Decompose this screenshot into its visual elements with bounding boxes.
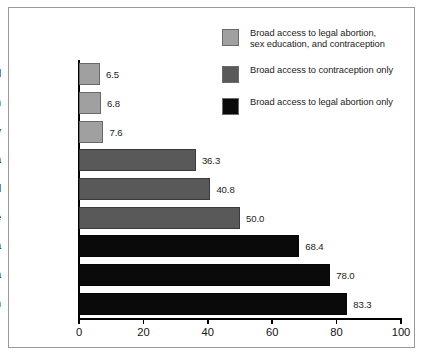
- y-axis-label: Chile: [0, 211, 1, 223]
- bar[interactable]: [79, 149, 196, 171]
- bar-row: 6.8: [79, 92, 401, 114]
- y-axis-category-labels: HollandBelgiumGermanyColombiaBrazilChile…: [0, 60, 1, 318]
- bar-row: 40.8: [79, 178, 401, 200]
- x-axis-tick-mark: [207, 318, 209, 324]
- x-axis-tick-mark: [271, 318, 273, 324]
- bar-value-label: 6.8: [107, 98, 120, 109]
- bar-value-label: 83.3: [353, 298, 371, 309]
- bar[interactable]: [79, 63, 100, 85]
- bar-row: 6.5: [79, 63, 401, 85]
- y-axis-label: Colombia: [0, 153, 1, 165]
- legend-item[interactable]: Broad access to legal abortion, sex educ…: [222, 28, 422, 51]
- legend-swatch-light-gray: [222, 29, 239, 46]
- x-axis-tick-label: 40: [202, 326, 214, 338]
- x-axis-tick-mark: [336, 318, 338, 324]
- x-axis-tick-label: 100: [392, 326, 411, 338]
- bar[interactable]: [79, 207, 240, 229]
- y-axis-label: Germany: [0, 125, 1, 137]
- bar[interactable]: [79, 235, 299, 257]
- y-axis-label: Romania: [0, 268, 1, 280]
- x-axis-tick-label: 60: [266, 326, 278, 338]
- legend-item-label: Broad access to legal abortion, sex educ…: [250, 28, 385, 51]
- bar-row: 50.0: [79, 207, 401, 229]
- x-axis-tick-mark: [400, 318, 402, 324]
- bar-value-label: 6.5: [106, 69, 119, 80]
- bar-value-label: 50.0: [246, 212, 264, 223]
- bar-row: 78.0: [79, 264, 401, 286]
- bar-row: 36.3: [79, 149, 401, 171]
- y-axis-label: Vietnam: [0, 297, 1, 309]
- bar-row: 7.6: [79, 121, 401, 143]
- y-axis-label: Belgium: [0, 96, 1, 108]
- bar-row: 68.4: [79, 235, 401, 257]
- x-axis-tick-label: 20: [137, 326, 149, 338]
- y-axis-label: Holland: [0, 67, 1, 79]
- bar-value-label: 36.3: [202, 155, 220, 166]
- plot-area: 6.56.87.636.340.850.068.478.083.30204060…: [79, 60, 401, 318]
- bar[interactable]: [79, 92, 101, 114]
- x-axis-tick-label: 0: [76, 326, 82, 338]
- bar[interactable]: [79, 264, 330, 286]
- bar-value-label: 7.6: [109, 126, 122, 137]
- y-axis-label: Brazil: [0, 182, 1, 194]
- chart-screenshot: Broad access to legal abortion, sex educ…: [0, 0, 425, 355]
- bar-value-label: 40.8: [216, 184, 234, 195]
- chart-frame: Broad access to legal abortion, sex educ…: [8, 7, 415, 348]
- bar-row: 83.3: [79, 293, 401, 315]
- y-axis-label: Russia: [0, 239, 1, 251]
- x-axis-tick-label: 80: [330, 326, 342, 338]
- bar-value-label: 68.4: [305, 241, 323, 252]
- bar[interactable]: [79, 293, 347, 315]
- bar[interactable]: [79, 178, 210, 200]
- bar[interactable]: [79, 121, 103, 143]
- x-axis-tick-mark: [143, 318, 145, 324]
- x-axis-tick-mark: [78, 318, 80, 324]
- bar-value-label: 78.0: [336, 270, 354, 281]
- x-axis-line: [78, 318, 402, 320]
